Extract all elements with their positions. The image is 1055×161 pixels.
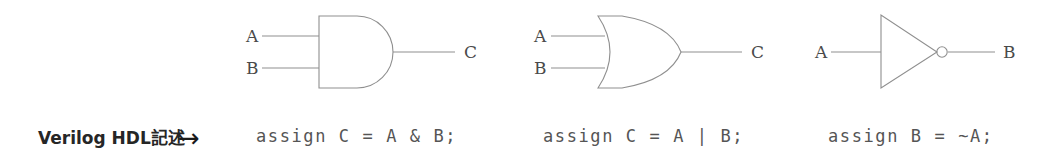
or-body [598, 16, 681, 88]
and-input-a-label: A [246, 28, 258, 45]
and-input-b-label: B [246, 60, 259, 77]
or-output-c-label: C [751, 44, 764, 61]
or-input-a-label: A [534, 28, 546, 45]
or-gate-code: assign C = A | B; [543, 128, 744, 145]
figure-canvas: A B C assign C = A & B; A B C assign C =… [0, 0, 1055, 161]
and-gate-code: assign C = A & B; [256, 128, 457, 145]
not-input-a-label: A [815, 44, 827, 61]
not-output-b-label: B [1003, 44, 1016, 61]
or-input-b-label: B [534, 60, 547, 77]
and-body [319, 16, 393, 88]
and-output-c-label: C [464, 44, 477, 61]
not-gate-code: assign B = ~A; [828, 128, 994, 145]
not-body-triangle [881, 15, 937, 88]
not-inversion-bubble [937, 47, 947, 57]
right-arrow-icon: → [178, 125, 200, 151]
hdl-caption-label: Verilog HDL記述 [38, 130, 185, 147]
